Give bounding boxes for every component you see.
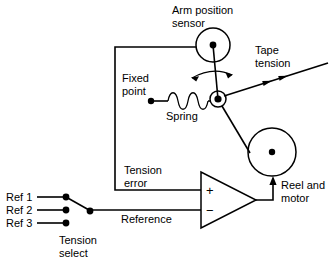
arm-position-sensor-label: Arm position sensor [172,4,233,30]
tension-select-label: Tension select [59,234,97,260]
spring-coil [168,93,208,110]
arm-to-reel-tape [222,106,250,153]
reel-and-motor-label: Reel and motor [281,179,325,205]
ref-3-contact-dot[interactable] [63,220,70,227]
tape-tension-label: Tape tension [255,44,290,70]
ref-3-label: Ref 3 [6,217,32,230]
fixed-point-label: Fixed point [122,72,149,98]
ref-2-label: Ref 2 [6,204,32,217]
differential-amplifier-triangle [201,172,256,228]
opamp-inverting-input-label: − [206,204,214,217]
opamp-noninverting-input-label: + [206,184,214,197]
tape-arrowhead-outer-icon [278,76,288,81]
diagram-canvas [0,0,330,273]
switch-common-dot[interactable] [87,208,94,215]
ref-2-contact-dot[interactable] [63,207,70,214]
tension-select-switch-blade[interactable] [66,197,89,210]
ref-1-label: Ref 1 [6,191,32,204]
reference-label: Reference [121,213,172,226]
motor-drive-arrowhead-icon [269,176,276,185]
rotation-arrow-left-icon [191,76,199,81]
spring-label: Spring [166,110,198,123]
reel-center-dot [269,149,275,155]
pivot-center-dot [214,95,221,102]
tension-error-label: Tension error [124,164,162,190]
tension-servo-diagram: Arm position sensor Tape tension Fixed p… [0,0,330,273]
tape-arrowhead-inner-icon [262,81,272,86]
